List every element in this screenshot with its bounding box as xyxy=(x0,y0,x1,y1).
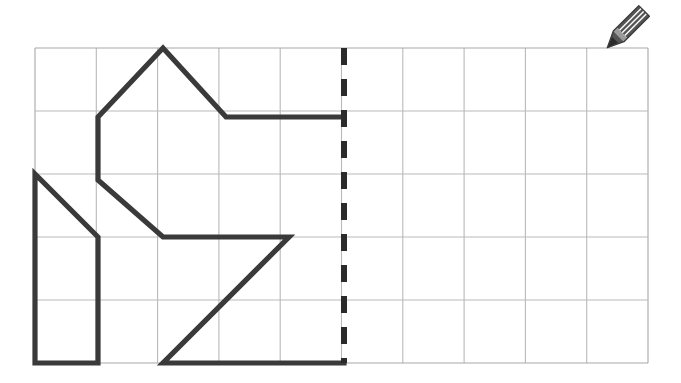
page-background xyxy=(0,0,681,383)
worksheet-canvas xyxy=(0,0,681,383)
worksheet-stage xyxy=(0,0,681,383)
